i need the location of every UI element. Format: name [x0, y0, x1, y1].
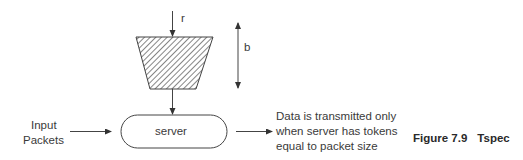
- figure-number: Figure 7.9: [413, 132, 467, 144]
- token-bucket: [136, 37, 213, 89]
- output-text-line2: when server has tokens: [276, 124, 397, 139]
- figure-caption: Figure 7.9Tspec: [413, 132, 510, 144]
- server-label: server: [155, 124, 187, 139]
- output-text-line3: equal to packet size: [276, 139, 378, 154]
- input-label-line2: Packets: [23, 133, 64, 148]
- bucket-depth-label: b: [244, 40, 250, 55]
- output-text-line1: Data is transmitted only: [276, 109, 396, 124]
- input-label-line1: Input: [31, 118, 57, 133]
- figure-title: Tspec: [477, 132, 509, 144]
- token-rate-label: r: [181, 11, 185, 26]
